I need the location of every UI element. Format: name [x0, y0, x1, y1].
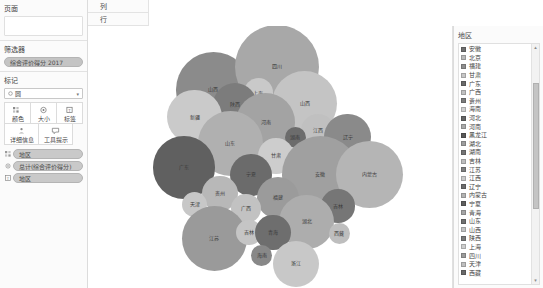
legend-item-label: 安徽	[469, 46, 481, 52]
circle-icon	[8, 90, 13, 98]
tooltip-button[interactable]: 工具提示	[38, 123, 73, 145]
legend-item-label: 贵州	[469, 98, 481, 104]
bubble-chart-canvas[interactable]: 山西四川上海陕西山西新疆河南江西辽宁湖南山东甘肃广东安徽内蒙古宁夏贵州福建天津广…	[88, 26, 453, 288]
svg-text:T: T	[67, 107, 71, 112]
pages-shelf-dropzone[interactable]	[4, 16, 83, 36]
legend-item[interactable]: 山东	[461, 217, 529, 226]
scroll-down-icon[interactable]: ▾	[534, 277, 537, 284]
bubble-label: 河南	[261, 120, 271, 125]
legend-item-label: 广东	[469, 81, 481, 87]
pill-label-color[interactable]: 地区	[13, 149, 83, 159]
legend-item-label: 海南	[469, 106, 481, 112]
legend-item[interactable]: 海南	[461, 105, 529, 114]
legend-item[interactable]: 天津	[461, 260, 529, 269]
legend-item-label: 陕西	[469, 235, 481, 241]
tooltip-icon	[51, 126, 60, 135]
color-icon	[13, 105, 22, 114]
color-button[interactable]: 颜色	[4, 102, 31, 124]
legend-swatch-icon	[461, 141, 466, 146]
legend-item[interactable]: 江苏	[461, 165, 529, 174]
legend-swatch-icon	[461, 219, 466, 224]
legend-item-label: 天津	[469, 261, 481, 267]
legend-swatch-icon	[461, 159, 466, 164]
bubble-label: 青海	[268, 230, 278, 235]
mark-type-value: 圆	[15, 89, 21, 98]
legend-item[interactable]: 福建	[461, 62, 529, 71]
legend-item[interactable]: 内蒙古	[461, 191, 529, 200]
legend-item[interactable]: 江西	[461, 174, 529, 183]
detail-button-label: 详细信息	[10, 136, 34, 143]
label-button-label: 标签	[64, 115, 76, 122]
legend-swatch-icon	[461, 55, 466, 60]
legend-item[interactable]: 河北	[461, 114, 529, 123]
legend-item[interactable]: 黑龙江	[461, 131, 529, 140]
legend-swatch-icon	[461, 236, 466, 241]
bubble-mark[interactable]: 海南	[251, 245, 272, 266]
legend-item[interactable]: 广东	[461, 79, 529, 88]
filter-pill[interactable]: 综合评价得分 2017	[4, 57, 83, 67]
label-button[interactable]: T 标签	[56, 102, 83, 124]
detail-button[interactable]: 详细信息	[4, 123, 39, 145]
scroll-up-icon[interactable]: ▴	[534, 44, 537, 51]
rows-shelf-label: 行	[100, 14, 107, 24]
legend-swatch-icon	[461, 124, 466, 129]
mark-type-dropdown[interactable]: 圆 ▾	[4, 88, 83, 99]
tooltip-button-label: 工具提示	[44, 136, 68, 143]
legend-item[interactable]: 甘肃	[461, 71, 529, 80]
size-icon	[39, 105, 48, 114]
legend-item[interactable]: 湖北	[461, 140, 529, 149]
bubble-label: 海南	[257, 253, 267, 258]
legend-item[interactable]: 山西	[461, 225, 529, 234]
scroll-track[interactable]	[533, 51, 539, 277]
marks-title: 标记	[4, 75, 83, 85]
legend-swatch-icon	[461, 116, 466, 121]
legend-swatch-icon	[461, 184, 466, 189]
legend-item[interactable]: 青海	[461, 208, 529, 217]
legend-item[interactable]: 广西	[461, 88, 529, 97]
legend-swatch-icon	[461, 193, 466, 198]
legend-item[interactable]: 西藏	[461, 268, 529, 277]
legend-item-label: 甘肃	[469, 72, 481, 78]
bubble-label: 江西	[313, 128, 323, 133]
svg-text:T: T	[5, 177, 9, 181]
legend-item[interactable]: 河南	[461, 122, 529, 131]
legend-item[interactable]: 贵州	[461, 97, 529, 106]
chevron-down-icon[interactable]: ▾	[76, 91, 79, 97]
legend-item-label: 辽宁	[469, 184, 481, 190]
legend-item-label: 河南	[469, 124, 481, 130]
color-button-label: 颜色	[12, 115, 24, 122]
scroll-thumb[interactable]	[533, 83, 539, 210]
bubble-mark[interactable]: 西藏	[329, 223, 350, 244]
legend-item[interactable]: 安徽	[461, 45, 529, 54]
rows-shelf: 行	[88, 13, 543, 26]
rows-shelf-dropzone[interactable]	[148, 13, 543, 26]
legend-item[interactable]: 湖南	[461, 148, 529, 157]
bubble-label: 新疆	[190, 115, 200, 120]
legend-item[interactable]: 辽宁	[461, 183, 529, 192]
legend-item[interactable]: 上海	[461, 243, 529, 252]
legend-item-label: 黑龙江	[469, 132, 487, 138]
legend-item[interactable]: 吉林	[461, 157, 529, 166]
main-area: 列 行 山西四川上海陕西山西新疆河南江西辽宁湖南山东甘肃广东安徽内蒙古宁夏贵州福…	[88, 0, 543, 288]
legend-scrollbar[interactable]: ▴ ▾	[531, 44, 539, 284]
bubble-label: 浙江	[291, 261, 301, 266]
legend-item-label: 山东	[469, 218, 481, 224]
bubble-mark[interactable]: 浙江	[273, 241, 319, 287]
legend-item-label: 吉林	[469, 158, 481, 164]
pill-label-label[interactable]: 地区	[13, 173, 83, 183]
columns-shelf-dropzone[interactable]	[148, 0, 543, 13]
size-button[interactable]: 大小	[30, 102, 57, 124]
pill-label-size[interactable]: 总计(综合评价得分)	[13, 161, 83, 171]
legend-item[interactable]: 北京	[461, 54, 529, 63]
legend-item[interactable]: 陕西	[461, 234, 529, 243]
grip-icon	[93, 16, 97, 22]
bubble-label: 山东	[225, 141, 235, 146]
legend-item[interactable]: 四川	[461, 251, 529, 260]
bubble-label: 福建	[273, 195, 283, 200]
marks-pill-label: T 地区	[4, 173, 83, 183]
mark-buttons-row-1: 颜色 大小 T 标签	[4, 102, 83, 124]
legend-item[interactable]: 宁夏	[461, 200, 529, 209]
legend-title: 地区	[458, 30, 540, 40]
legend-swatch-icon	[461, 73, 466, 78]
legend-swatch-icon	[461, 210, 466, 215]
